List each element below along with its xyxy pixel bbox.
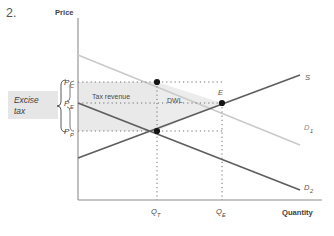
x-tick-qe: Q E <box>216 207 226 218</box>
y-tick-pe-subscript: E <box>70 104 74 110</box>
demand-d2-label: D 2 <box>304 183 314 194</box>
equilibrium-point-label: E <box>218 88 224 97</box>
y-tick-pc: P C <box>64 78 75 89</box>
dwl-label: DWL <box>167 97 183 104</box>
dwl-region <box>157 82 222 131</box>
demand-d1-label: D 1 <box>304 123 313 134</box>
y-tick-pp: P P <box>64 127 74 138</box>
y-tick-pc-subscript: C <box>70 83 75 89</box>
x-tick-qe-subscript: E <box>222 212 226 218</box>
point-pc-qt <box>154 79 160 85</box>
excise-tax-label-line2: tax <box>14 106 26 116</box>
y-tick-pp-subscript: P <box>70 132 74 138</box>
supply-curve-label-text: S <box>305 73 310 82</box>
demand-d1-label-subscript: 1 <box>310 128 313 134</box>
excise-tax-supply-demand-diagram: 2. Price Quantity P C P E P P Q T Q E S … <box>0 0 334 236</box>
point-equilibrium-e <box>219 100 225 106</box>
x-tick-qt-subscript: T <box>157 212 161 218</box>
excise-tax-label-line1: Excise <box>14 95 39 105</box>
tax-revenue-label: Tax revenue <box>92 93 130 100</box>
demand-d2-label-subscript: 2 <box>309 188 314 194</box>
supply-curve-label: S <box>305 73 310 82</box>
x-tick-qt: Q T <box>151 207 161 218</box>
y-axis-label: Price <box>55 8 74 17</box>
point-pp-qt <box>154 128 160 134</box>
x-axis-label: Quantity <box>282 208 314 217</box>
problem-number: 2. <box>6 6 16 20</box>
tax-revenue-region <box>78 82 157 131</box>
